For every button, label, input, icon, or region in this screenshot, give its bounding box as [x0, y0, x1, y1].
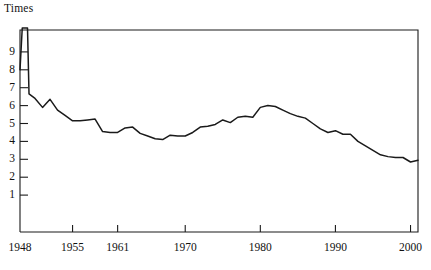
plot-frame: [20, 30, 418, 232]
x-tick-label-1990: 1990: [315, 242, 355, 254]
y-tick-label-3: 3: [1, 153, 15, 165]
data-series-times: [20, 28, 418, 162]
y-tick-label-5: 5: [1, 118, 15, 130]
line-chart-plot: [0, 0, 431, 270]
y-tick-label-2: 2: [1, 171, 15, 183]
y-tick-label-9: 9: [1, 46, 15, 58]
y-tick-label-6: 6: [1, 100, 15, 112]
x-tick-label-1970: 1970: [165, 242, 205, 254]
x-tick-label-1961: 1961: [98, 242, 138, 254]
x-tick-label-2000: 2000: [391, 242, 431, 254]
y-tick-label-4: 4: [1, 135, 15, 147]
y-axis-tick-marks: [20, 52, 28, 195]
y-tick-label-8: 8: [1, 64, 15, 76]
chart-container: Times 123456789 194819551961197019801990…: [0, 0, 431, 270]
x-tick-label-1955: 1955: [53, 242, 93, 254]
y-tick-label-7: 7: [1, 82, 15, 94]
x-axis-tick-marks: [73, 225, 411, 232]
y-tick-label-1: 1: [1, 189, 15, 201]
x-tick-label-1948: 1948: [0, 242, 40, 254]
x-tick-label-1980: 1980: [240, 242, 280, 254]
